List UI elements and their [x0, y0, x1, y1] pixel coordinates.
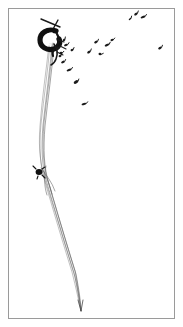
- figure-canvas: Kite with string and scattered flying sp…: [0, 0, 183, 327]
- figure-frame: [0, 0, 183, 327]
- drawing-svg: [0, 0, 183, 327]
